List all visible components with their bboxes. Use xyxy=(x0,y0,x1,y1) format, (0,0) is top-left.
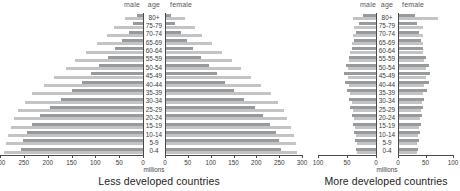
male-bars xyxy=(0,13,143,21)
female-bars xyxy=(398,30,453,38)
bar-female-light xyxy=(398,51,423,54)
age-group-label: 20-24 xyxy=(142,114,166,121)
female-bars xyxy=(398,113,453,121)
bar-female-light xyxy=(165,42,212,45)
bar-female-light xyxy=(165,101,278,104)
male-bars xyxy=(0,46,143,54)
age-group-label: 30-34 xyxy=(142,97,166,104)
bar-female-light xyxy=(398,126,419,129)
x-tick-male xyxy=(48,155,49,158)
x-tick-female xyxy=(426,155,427,158)
male-bars xyxy=(318,138,376,146)
x-tick-label-male: 0 xyxy=(141,159,145,166)
bar-male-light xyxy=(350,92,376,95)
panel-more-developed: male age female 100500050100millions 80+… xyxy=(318,0,454,191)
x-tick-label-male: 0 xyxy=(374,159,378,166)
male-bars xyxy=(318,130,376,138)
age-group-label: 35-39 xyxy=(142,89,166,96)
female-bars xyxy=(165,38,302,46)
age-group-label: 20-24 xyxy=(375,114,399,121)
age-label-column-more: 80+75-7970-7465-6960-6455-5950-5445-4940… xyxy=(375,13,399,158)
female-bars xyxy=(398,105,453,113)
column-header-age: age xyxy=(142,1,166,12)
x-tick-male xyxy=(347,155,348,158)
bar-male-light xyxy=(107,34,143,37)
bar-male-light xyxy=(349,59,376,62)
bar-male-light xyxy=(114,26,143,29)
age-group-label: 60-64 xyxy=(375,47,399,54)
bar-female-light xyxy=(398,34,423,37)
x-tick-label-male: 100 xyxy=(90,159,101,166)
panel-less-developed: male age female 300250200150100500050100… xyxy=(0,0,318,191)
x-tick-label-female: 200 xyxy=(251,159,262,166)
age-group-label: 80+ xyxy=(375,14,399,21)
x-tick-male xyxy=(24,155,25,158)
bar-female-light xyxy=(398,134,418,137)
male-bars xyxy=(318,88,376,96)
female-bars xyxy=(165,13,302,21)
x-tick-label-male: 50 xyxy=(343,159,350,166)
age-group-label: 5-9 xyxy=(375,139,399,146)
bar-female-light xyxy=(165,126,291,129)
male-bars xyxy=(0,138,143,146)
male-bars xyxy=(318,80,376,88)
bar-male-light xyxy=(355,126,376,129)
female-bars xyxy=(165,55,302,63)
bar-male-light xyxy=(348,67,376,70)
male-bars xyxy=(0,71,143,79)
female-bars xyxy=(398,88,453,96)
age-group-label: 45-49 xyxy=(142,72,166,79)
male-bars xyxy=(318,55,376,63)
male-bars xyxy=(318,30,376,38)
age-group-label: 35-39 xyxy=(375,89,399,96)
x-tick-female xyxy=(211,155,212,158)
female-bars xyxy=(165,130,302,138)
column-header-age-2: age xyxy=(375,1,399,12)
bar-male-light xyxy=(66,67,143,70)
bar-female-light xyxy=(398,76,426,79)
x-tick-label-female: 0 xyxy=(163,159,167,166)
bar-male-light xyxy=(86,51,143,54)
age-group-label: 50-54 xyxy=(375,64,399,71)
x-tick-male xyxy=(72,155,73,158)
x-tick-label-female: 0 xyxy=(396,159,400,166)
female-bars xyxy=(398,21,453,29)
x-tick-label-male: 150 xyxy=(66,159,77,166)
age-group-label: 40-44 xyxy=(375,81,399,88)
x-tick-label-male: 50 xyxy=(116,159,123,166)
x-axis-unit-label: millions xyxy=(144,166,165,173)
female-bars xyxy=(165,46,302,54)
bar-male-light xyxy=(8,134,143,137)
x-tick-female xyxy=(256,155,257,158)
x-tick-label-male: 100 xyxy=(313,159,324,166)
male-bars xyxy=(0,147,143,155)
column-header-male: male xyxy=(96,1,140,12)
x-tick-male xyxy=(119,155,120,158)
male-bars xyxy=(0,97,143,105)
age-label-column-less: 80+75-7970-7465-6960-6455-5950-5445-4940… xyxy=(142,13,166,158)
x-tick-female xyxy=(188,155,189,158)
female-bars xyxy=(165,88,302,96)
bar-female-light xyxy=(165,76,251,79)
bar-female-light xyxy=(398,84,424,87)
x-tick-label-female: 50 xyxy=(422,159,429,166)
age-group-label: 25-29 xyxy=(142,106,166,113)
age-group-label: 15-19 xyxy=(375,122,399,129)
bar-female-light xyxy=(165,34,202,37)
bar-male-light xyxy=(348,76,376,79)
male-bars xyxy=(318,105,376,113)
x-axis-unit-label: millions xyxy=(377,166,398,173)
x-tick-label-female: 100 xyxy=(448,159,459,166)
female-bars xyxy=(165,138,302,146)
age-group-label: 50-54 xyxy=(142,64,166,71)
age-group-label: 65-69 xyxy=(142,39,166,46)
bar-male-light xyxy=(350,51,376,54)
male-bars xyxy=(0,63,143,71)
x-tick-female xyxy=(279,155,280,158)
bar-male-light xyxy=(97,42,143,45)
bar-female-light xyxy=(165,134,294,137)
bar-female-light xyxy=(165,117,287,120)
age-group-label: 70-74 xyxy=(375,30,399,37)
female-bars xyxy=(398,55,453,63)
bar-male-light xyxy=(353,17,376,20)
